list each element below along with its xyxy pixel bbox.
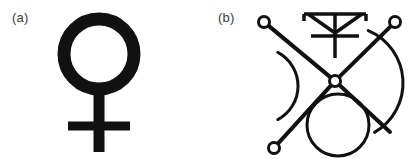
trident-left-diagonal bbox=[308, 14, 335, 33]
panel-a: (a) bbox=[0, 0, 208, 159]
panel-b: (b) bbox=[208, 0, 416, 159]
venus-female-symbol bbox=[0, 0, 208, 159]
venus-circle bbox=[64, 19, 134, 89]
composite-trident-cross-glyph bbox=[208, 0, 416, 159]
venus-crossbar bbox=[68, 122, 130, 131]
ray-up-left-endpoint-ring bbox=[259, 17, 270, 28]
center-hub-ring bbox=[330, 76, 341, 87]
left-crescent-arc bbox=[278, 52, 298, 119]
trident-symbol bbox=[304, 14, 366, 58]
ray-up-right-endpoint-ring bbox=[390, 17, 401, 28]
figure-container: (a) (b) bbox=[0, 0, 416, 159]
center-hub-ring-shape bbox=[330, 76, 341, 87]
ray-down-left-endpoint-ring bbox=[269, 143, 280, 154]
venus-vertical-stem bbox=[94, 89, 105, 152]
bottom-circle bbox=[307, 94, 369, 156]
trident-right-diagonal bbox=[335, 14, 362, 33]
